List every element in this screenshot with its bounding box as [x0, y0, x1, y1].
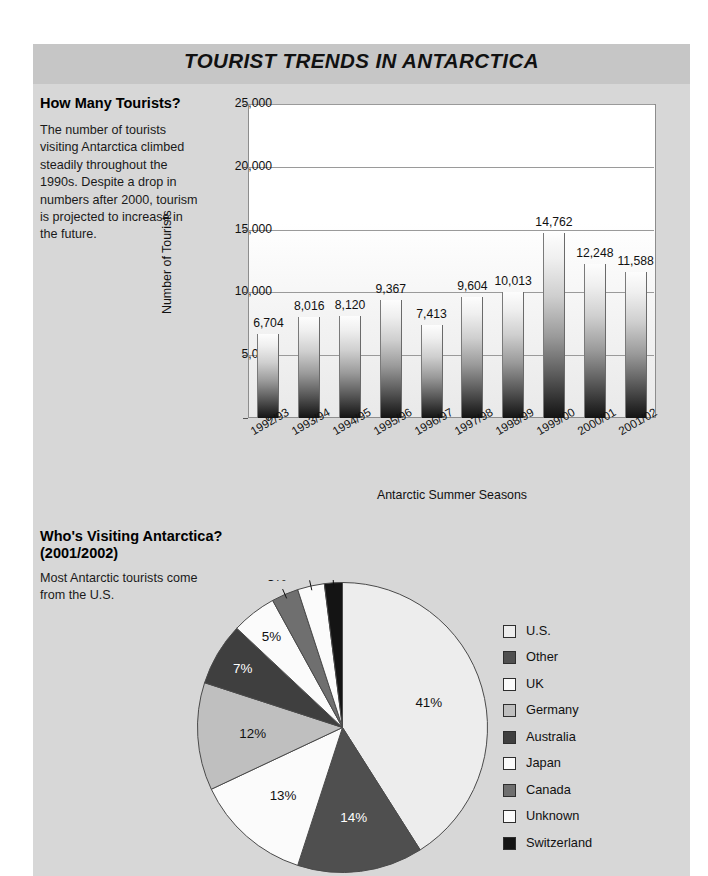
legend-item-label: Japan — [526, 757, 561, 770]
bar — [339, 316, 361, 418]
bar — [502, 292, 524, 418]
pie-chart-legend: U.S.OtherUKGermanyAustraliaJapanCanadaUn… — [503, 618, 683, 857]
legend-item-label: Canada — [526, 784, 571, 797]
pie-chart: 41%14%13%12%7%5%3%3%2% — [195, 580, 490, 875]
y-tick-mark — [243, 418, 248, 419]
bar — [625, 272, 647, 418]
pie-slice-label: 5% — [262, 629, 281, 644]
bar — [421, 325, 443, 418]
legend-item: UK — [503, 671, 683, 698]
bar — [461, 297, 483, 418]
pie-slice-label: 7% — [233, 661, 252, 676]
legend-swatch-icon — [503, 810, 516, 823]
bar-value-label: 11,588 — [608, 254, 664, 268]
bar-value-label: 8,120 — [322, 298, 378, 312]
legend-item: Canada — [503, 777, 683, 804]
bar-chart: 05,00010,00015,00020,00025,000 6,7048,01… — [248, 104, 690, 504]
infographic-page: TOURIST TRENDS IN ANTARCTICA How Many To… — [0, 0, 708, 876]
legend-item: U.S. — [503, 618, 683, 645]
y-tick-label: 10,000 — [216, 284, 272, 298]
legend-item: Germany — [503, 698, 683, 725]
y-tick-mark — [243, 167, 248, 168]
pie-slice-label: 12% — [239, 726, 266, 741]
legend-item: Other — [503, 645, 683, 672]
pie-slice-label: 14% — [340, 810, 367, 825]
legend-item-label: U.S. — [526, 625, 551, 638]
y-tick-mark — [243, 355, 248, 356]
gridline — [248, 167, 654, 168]
legend-item: Switzerland — [503, 830, 683, 857]
pie-chart-svg: 41%14%13%12%7%5%3%3%2% — [195, 580, 490, 875]
legend-swatch-icon — [503, 837, 516, 850]
legend-item-label: Switzerland — [526, 837, 592, 850]
pie-slice-label: 3% — [267, 580, 286, 584]
bar-section-heading: How Many Tourists? — [40, 95, 210, 112]
bar-value-label: 9,367 — [363, 282, 419, 296]
bar-value-label: 14,762 — [526, 215, 582, 229]
pie-section-body: Most Antarctic tourists come from the U.… — [40, 570, 200, 605]
legend-swatch-icon — [503, 784, 516, 797]
legend-swatch-icon — [503, 757, 516, 770]
bar — [380, 300, 402, 418]
legend-swatch-icon — [503, 731, 516, 744]
bar-value-label: 7,413 — [404, 307, 460, 321]
gridline — [248, 230, 654, 231]
legend-item: Unknown — [503, 804, 683, 831]
legend-item-label: Australia — [526, 731, 576, 744]
y-tick-label: 20,000 — [216, 159, 272, 173]
y-tick-label: 15,000 — [216, 222, 272, 236]
legend-swatch-icon — [503, 625, 516, 638]
gridline — [248, 104, 654, 105]
y-tick-mark — [243, 292, 248, 293]
bar — [543, 233, 565, 418]
legend-swatch-icon — [503, 678, 516, 691]
bar-chart-y-axis-title: Number of Tourists — [160, 210, 174, 314]
bar — [257, 334, 279, 418]
legend-item: Japan — [503, 751, 683, 778]
bar — [298, 317, 320, 418]
pie-slice-label: 13% — [270, 788, 297, 803]
pie-section-heading: Who's Visiting Antarctica?(2001/2002) — [40, 528, 240, 562]
y-tick-mark — [243, 104, 248, 105]
legend-item: Australia — [503, 724, 683, 751]
bar-section-body: The number of tourists visiting Antarcti… — [40, 122, 200, 244]
y-tick-mark — [243, 230, 248, 231]
legend-swatch-icon — [503, 704, 516, 717]
pie-slice-label: 41% — [415, 695, 442, 710]
page-title: TOURIST TRENDS IN ANTARCTICA — [33, 49, 690, 73]
legend-item-label: UK — [526, 678, 544, 691]
legend-item-label: Other — [526, 651, 558, 664]
legend-swatch-icon — [503, 651, 516, 664]
bar-value-label: 10,013 — [485, 274, 541, 288]
bar-chart-x-axis-title: Antarctic Summer Seasons — [248, 488, 656, 502]
pie-label-leader-line — [333, 580, 334, 587]
y-tick-label: 25,000 — [216, 96, 272, 110]
bar-value-label: 6,704 — [240, 316, 296, 330]
legend-item-label: Unknown — [526, 810, 579, 823]
legend-item-label: Germany — [526, 704, 579, 717]
bar — [584, 264, 606, 418]
